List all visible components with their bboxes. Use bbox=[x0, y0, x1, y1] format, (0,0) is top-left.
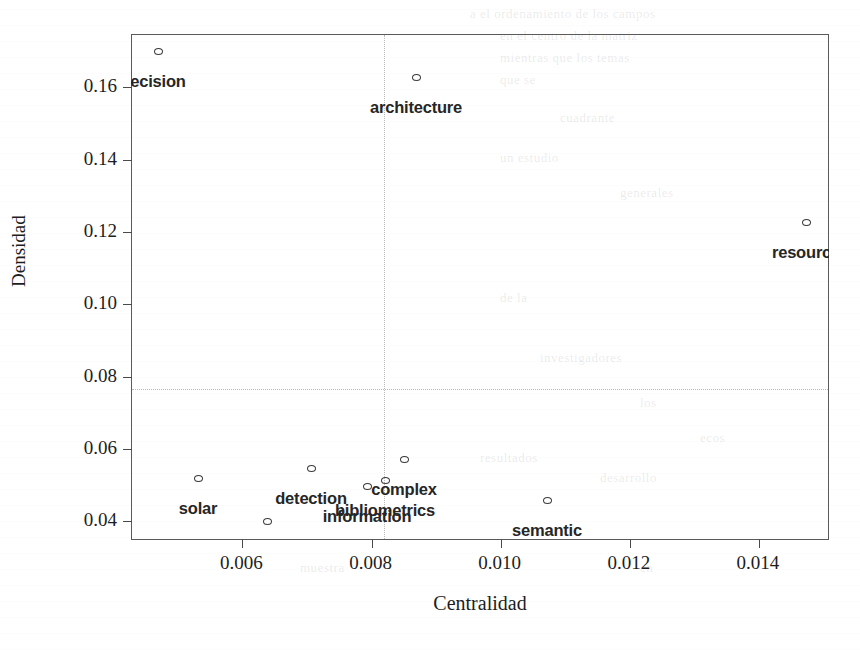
data-point-label: semantic bbox=[512, 521, 582, 540]
y-tick-label: 0.08 bbox=[84, 365, 117, 387]
x-axis-tick-labels: 0.0060.0080.0100.0120.014 bbox=[131, 552, 829, 582]
x-tick-mark bbox=[759, 539, 760, 548]
data-point-label: complex bbox=[371, 480, 437, 499]
data-point-marker[interactable] bbox=[802, 219, 811, 226]
data-point-label: architecture bbox=[370, 98, 462, 117]
y-tick-label: 0.06 bbox=[84, 437, 117, 459]
x-tick-mark bbox=[372, 539, 373, 548]
data-point-marker[interactable] bbox=[263, 518, 272, 525]
x-tick-label: 0.014 bbox=[737, 552, 780, 574]
x-tick-label: 0.006 bbox=[220, 552, 263, 574]
data-point-label: resource bbox=[772, 243, 829, 262]
data-point-marker[interactable] bbox=[412, 74, 421, 81]
data-point-marker[interactable] bbox=[363, 483, 372, 490]
scatter-chart-figure: 0.040.060.080.100.120.140.16 Densidad ec… bbox=[0, 0, 860, 650]
x-tick-mark bbox=[630, 539, 631, 548]
y-axis-tick-labels: 0.040.060.080.100.120.140.16 bbox=[0, 34, 117, 540]
y-tick-label: 0.10 bbox=[84, 292, 117, 314]
data-point-marker[interactable] bbox=[400, 456, 409, 463]
y-tick-label: 0.12 bbox=[84, 220, 117, 242]
data-point-marker[interactable] bbox=[154, 48, 163, 55]
data-point-marker[interactable] bbox=[307, 465, 316, 472]
y-tick-label: 0.14 bbox=[84, 148, 117, 170]
y-tick-label: 0.04 bbox=[84, 509, 117, 531]
x-tick-label: 0.010 bbox=[478, 552, 521, 574]
data-points-layer: ecisionarchitectureresourcecomplexdetect… bbox=[131, 34, 829, 540]
x-tick-mark bbox=[501, 539, 502, 548]
data-point-marker[interactable] bbox=[543, 497, 552, 504]
x-tick-label: 0.012 bbox=[607, 552, 650, 574]
data-point-label: information bbox=[323, 507, 412, 526]
x-tick-label: 0.008 bbox=[349, 552, 392, 574]
y-axis-title: Densidad bbox=[8, 215, 30, 287]
data-point-label: solar bbox=[179, 499, 217, 518]
x-axis-title: Centralidad bbox=[131, 592, 829, 615]
data-point-label: ecision bbox=[131, 72, 186, 91]
x-tick-mark bbox=[242, 539, 243, 548]
y-tick-label: 0.16 bbox=[84, 75, 117, 97]
data-point-marker[interactable] bbox=[194, 475, 203, 482]
data-point-marker[interactable] bbox=[381, 477, 390, 484]
